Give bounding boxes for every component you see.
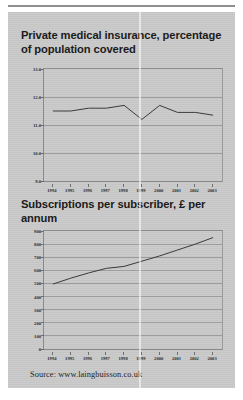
x-axis-tick-mark — [52, 184, 53, 187]
x-axis-tick-mark — [52, 352, 53, 355]
x-axis-tick-label: 2002 — [190, 188, 199, 193]
page-root: Private medical insurance, percentage of… — [0, 0, 243, 400]
y-axis-tick-mark — [41, 244, 44, 245]
y-axis-tick-label: 900 — [34, 229, 41, 234]
chart-2-plot-area: 9008007006005004003002001000 — [43, 230, 223, 350]
data-line — [53, 105, 213, 119]
x-axis-tick-mark — [123, 184, 124, 187]
chart-2: 9008007006005004003002001000 19941995199… — [18, 226, 228, 366]
x-axis-tick-label: 2003 — [208, 188, 217, 193]
y-axis-tick-mark — [41, 322, 44, 323]
chart-1-plot-area: 13.012.011.010.09.0 — [43, 68, 223, 182]
chart-2-title: Subscriptions per subscriber, £ per annu… — [21, 197, 226, 225]
x-axis-tick-mark — [70, 352, 71, 355]
x-axis-tick-label: 1994 — [47, 356, 56, 361]
x-axis-tick-label: 2003 — [208, 356, 217, 361]
chart-2-line-series — [44, 231, 222, 349]
y-axis-tick-mark — [41, 69, 44, 70]
x-axis-tick-label: 1999 — [136, 188, 145, 193]
x-axis-tick-label: 2001 — [172, 356, 181, 361]
x-axis-tick-label: 1999 — [136, 356, 145, 361]
x-axis-tick-mark — [88, 352, 89, 355]
y-axis-tick-mark — [41, 181, 44, 182]
y-axis-tick-label: 100 — [34, 333, 41, 338]
x-axis-tick-label: 1998 — [119, 188, 128, 193]
y-axis-tick-label: 800 — [34, 242, 41, 247]
x-axis-tick-label: 2000 — [154, 356, 163, 361]
y-axis-tick-mark — [41, 309, 44, 310]
x-axis-tick-label: 1997 — [101, 188, 110, 193]
x-axis-tick-label: 1998 — [119, 356, 128, 361]
data-line — [53, 238, 213, 285]
x-axis-tick-mark — [194, 352, 195, 355]
x-axis-tick-label: 1997 — [101, 356, 110, 361]
x-axis-tick-label: 2001 — [172, 188, 181, 193]
top-divider-rule — [8, 5, 235, 7]
y-axis-tick-label: 12.0 — [33, 95, 41, 100]
x-axis-tick-mark — [105, 352, 106, 355]
x-axis-tick-label: 1995 — [65, 188, 74, 193]
x-axis-tick-mark — [70, 184, 71, 187]
x-axis-tick-mark — [177, 352, 178, 355]
x-axis-tick-mark — [88, 184, 89, 187]
x-axis-tick-mark — [159, 184, 160, 187]
y-axis-tick-label: 11.0 — [33, 123, 41, 128]
figure-panel: Private medical insurance, percentage of… — [8, 12, 235, 388]
y-axis-tick-label: 13.0 — [33, 67, 41, 72]
chart-2-x-axis: 1994199519961997199819992000200120022003 — [43, 352, 221, 364]
y-axis-tick-label: 700 — [34, 255, 41, 260]
x-axis-tick-mark — [159, 352, 160, 355]
y-axis-tick-label: 300 — [34, 307, 41, 312]
x-axis-tick-label: 1996 — [83, 188, 92, 193]
x-axis-tick-mark — [105, 184, 106, 187]
y-axis-tick-mark — [41, 283, 44, 284]
y-axis-tick-mark — [41, 257, 44, 258]
y-axis-tick-label: 600 — [34, 268, 41, 273]
x-axis-tick-label: 1994 — [47, 188, 56, 193]
x-axis-tick-label: 1995 — [65, 356, 74, 361]
y-axis-tick-mark — [41, 125, 44, 126]
y-axis-tick-mark — [41, 349, 44, 350]
x-axis-tick-label: 2000 — [154, 188, 163, 193]
chart-1: 13.012.011.010.09.0 19941995199619971998… — [18, 64, 228, 192]
y-axis-tick-mark — [41, 97, 44, 98]
source-note: Source: www.laingbuisson.co.uk — [30, 370, 142, 379]
y-axis-tick-mark — [41, 335, 44, 336]
x-axis-tick-label: 1996 — [83, 356, 92, 361]
y-axis-tick-mark — [41, 231, 44, 232]
x-axis-tick-mark — [141, 352, 142, 355]
x-axis-tick-mark — [212, 184, 213, 187]
x-axis-tick-mark — [141, 184, 142, 187]
y-axis-tick-label: 500 — [34, 281, 41, 286]
x-axis-tick-mark — [212, 352, 213, 355]
x-axis-tick-mark — [194, 184, 195, 187]
chart-1-x-axis: 1994199519961997199819992000200120022003 — [43, 184, 221, 196]
y-axis-tick-label: 10.0 — [33, 151, 41, 156]
y-axis-tick-label: 200 — [34, 320, 41, 325]
chart-1-line-series — [44, 69, 222, 181]
x-axis-tick-mark — [177, 184, 178, 187]
y-axis-tick-mark — [41, 270, 44, 271]
y-axis-tick-mark — [41, 296, 44, 297]
x-axis-tick-label: 2002 — [190, 356, 199, 361]
y-axis-tick-mark — [41, 153, 44, 154]
x-axis-tick-mark — [123, 352, 124, 355]
chart-1-title: Private medical insurance, percentage of… — [21, 28, 226, 56]
y-axis-tick-label: 400 — [34, 294, 41, 299]
